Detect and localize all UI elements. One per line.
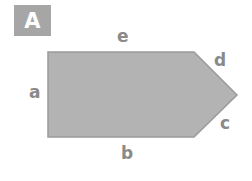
side-label-d: d <box>214 52 226 69</box>
side-label-a: a <box>29 84 40 101</box>
side-label-e: e <box>117 28 129 45</box>
side-label-b: b <box>121 145 133 162</box>
pentagon-shape <box>48 52 237 137</box>
side-label-c: c <box>220 115 230 132</box>
